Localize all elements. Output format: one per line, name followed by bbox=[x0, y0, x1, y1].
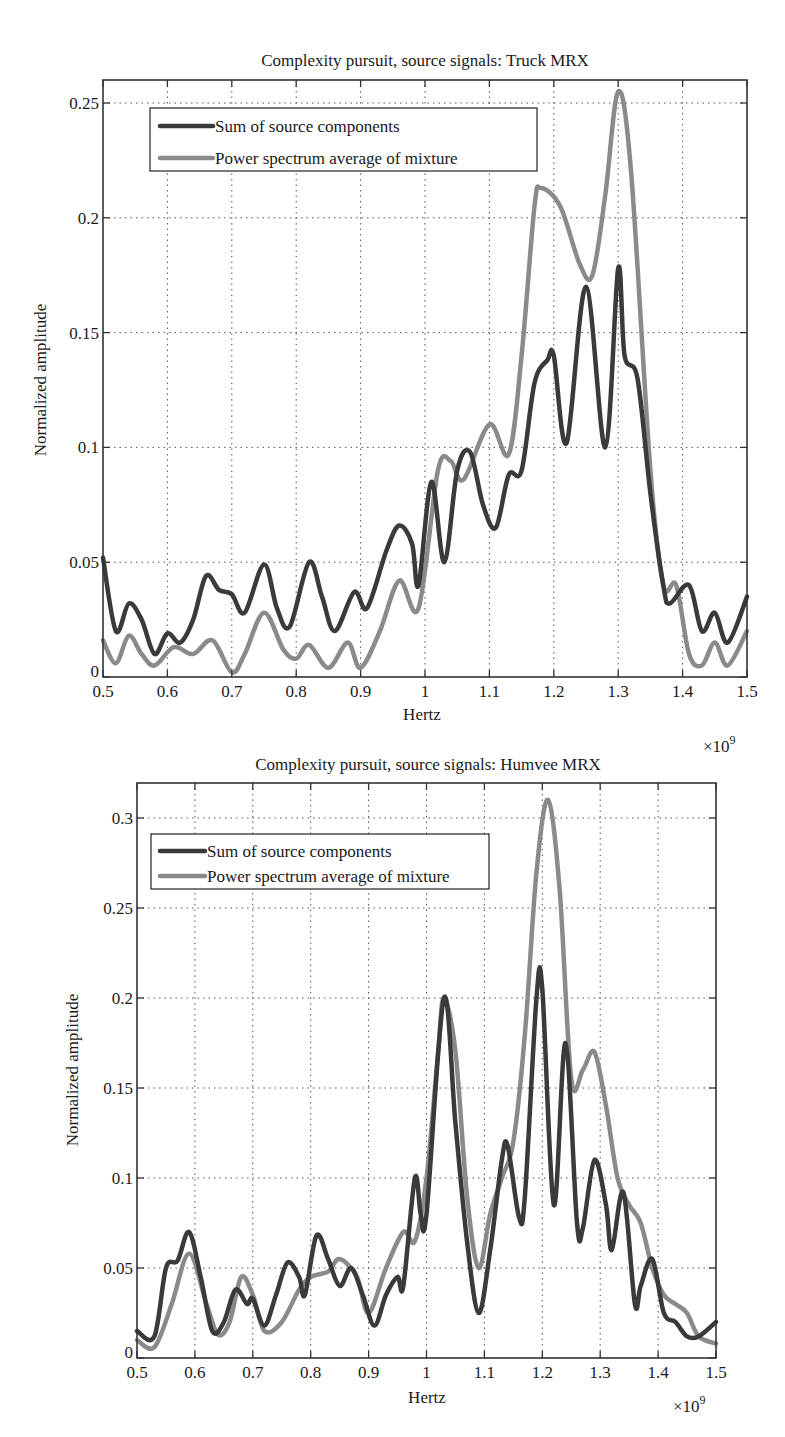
x-tick-label: 1 bbox=[422, 1363, 431, 1382]
x-multiplier-base: ×10 bbox=[703, 737, 730, 756]
y-tick-label: 0.25 bbox=[103, 899, 133, 918]
x-multiplier-exponent: 9 bbox=[730, 733, 736, 747]
legend-label-power: Power spectrum average of mixture bbox=[215, 149, 458, 168]
y-tick-label: 0.15 bbox=[103, 1079, 133, 1098]
x-tick-label: 0.6 bbox=[184, 1363, 205, 1382]
y-tick-label: 0.05 bbox=[103, 1259, 133, 1278]
x-tick-label: 1.1 bbox=[479, 682, 500, 701]
chart-title: Complexity pursuit, source signals: Truc… bbox=[261, 51, 589, 70]
legend: Sum of source components Power spectrum … bbox=[151, 834, 489, 889]
x-tick-label: 0.5 bbox=[126, 1363, 147, 1382]
x-axis-label: Hertz bbox=[403, 705, 441, 724]
x-multiplier: ×109 bbox=[673, 1393, 706, 1416]
series-line-power-spectrum-average bbox=[103, 91, 747, 673]
legend: Sum of source components Power spectrum … bbox=[150, 108, 537, 171]
y-tick-label: 0.2 bbox=[78, 209, 99, 228]
x-tick-label: 0.9 bbox=[350, 682, 371, 701]
y-tick-label: 0 bbox=[125, 1343, 134, 1362]
x-multiplier-exponent: 9 bbox=[700, 1393, 706, 1407]
x-tick-label: 0.8 bbox=[300, 1363, 321, 1382]
y-tick-label: 0.3 bbox=[112, 809, 133, 828]
x-tick-label: 1.2 bbox=[543, 682, 564, 701]
x-tick-label: 0.7 bbox=[242, 1363, 264, 1382]
y-axis-label: Normalized amplitude bbox=[31, 304, 50, 456]
x-tick-label: 1.2 bbox=[532, 1363, 553, 1382]
x-multiplier-base: ×10 bbox=[673, 1397, 700, 1416]
y-tick-label: 0.1 bbox=[78, 438, 99, 457]
series-layer bbox=[103, 91, 747, 673]
x-multiplier: ×109 bbox=[703, 733, 736, 756]
chart-truck: Complexity pursuit, source signals: Truc… bbox=[31, 51, 758, 756]
x-tick-label: 0.8 bbox=[286, 682, 307, 701]
y-tick-label: 0.2 bbox=[112, 989, 133, 1008]
y-tick-label: 0.1 bbox=[112, 1169, 133, 1188]
y-tick-label: 0.05 bbox=[69, 553, 99, 572]
x-tick-label: 0.7 bbox=[221, 682, 243, 701]
x-tick-label: 0.9 bbox=[358, 1363, 379, 1382]
chart-title: Complexity pursuit, source signals: Humv… bbox=[255, 755, 601, 774]
y-axis-label: Normalized amplitude bbox=[63, 994, 82, 1146]
legend-label-power: Power spectrum average of mixture bbox=[207, 867, 450, 886]
x-tick-label: 1.4 bbox=[647, 1363, 669, 1382]
x-tick-label: 1.5 bbox=[705, 1363, 726, 1382]
x-axis-label: Hertz bbox=[408, 1388, 446, 1407]
x-tick-label: 1.4 bbox=[672, 682, 694, 701]
x-tick-label: 1.1 bbox=[474, 1363, 495, 1382]
y-tick-label: 0.15 bbox=[69, 324, 99, 343]
x-tick-label: 1.3 bbox=[590, 1363, 611, 1382]
legend-label-sum: Sum of source components bbox=[215, 117, 400, 136]
x-tick-label: 0.5 bbox=[92, 682, 113, 701]
x-tick-label: 1 bbox=[421, 682, 430, 701]
y-tick-label: 0.25 bbox=[69, 94, 99, 113]
x-tick-label: 1.5 bbox=[736, 682, 757, 701]
figure: Complexity pursuit, source signals: Truc… bbox=[0, 0, 785, 1437]
x-tick-label: 1.3 bbox=[608, 682, 629, 701]
chart-humvee: Complexity pursuit, source signals: Humv… bbox=[63, 755, 727, 1416]
y-tick-label: 0 bbox=[91, 662, 100, 681]
x-tick-label: 0.6 bbox=[157, 682, 178, 701]
legend-label-sum: Sum of source components bbox=[207, 842, 392, 861]
